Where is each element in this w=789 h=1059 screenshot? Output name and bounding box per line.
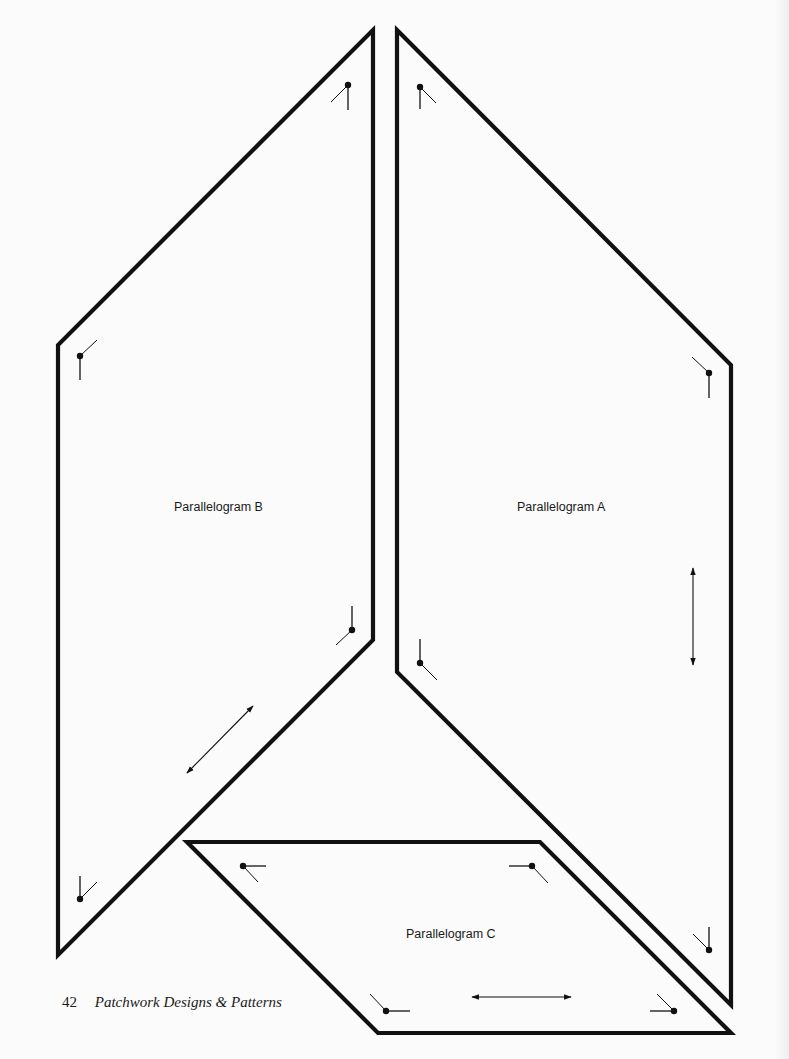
parallelogram-c-label: Parallelogram C: [406, 927, 496, 941]
seam-line: [243, 866, 258, 882]
corner-dot-icon: [417, 84, 423, 90]
seam-line: [693, 934, 709, 950]
corner-dot-icon: [417, 660, 423, 666]
seam-corner-mark: [417, 84, 436, 109]
pattern-page: Parallelogram B Parallelogram A Parallel…: [0, 0, 789, 1059]
page-edge-shadow: [775, 0, 789, 1059]
seam-line: [370, 994, 386, 1011]
seam-line: [657, 994, 674, 1011]
seam-line: [692, 357, 709, 373]
seam-corner-mark: [692, 357, 712, 398]
book-title: Patchwork Designs & Patterns: [95, 994, 282, 1010]
template-outlines: [58, 30, 731, 1033]
seam-line: [420, 87, 436, 103]
corner-dot-icon: [706, 370, 712, 376]
seam-allowance-marks: [77, 82, 712, 1014]
seam-corner-mark: [77, 340, 97, 380]
grain-arrow-b-icon: [187, 706, 253, 773]
seam-corner-mark: [336, 606, 355, 645]
corner-dot-icon: [383, 1008, 389, 1014]
seam-corner-mark: [509, 863, 548, 883]
corner-dot-icon: [77, 353, 83, 359]
corner-dot-icon: [77, 896, 83, 902]
page-number: 42: [62, 994, 77, 1010]
pattern-template-diagram: [0, 0, 789, 1059]
corner-dot-icon: [671, 1008, 677, 1014]
corner-dot-icon: [349, 627, 355, 633]
corner-dot-icon: [706, 947, 712, 953]
seam-corner-mark: [650, 994, 677, 1014]
seam-line: [80, 340, 97, 356]
parallelogram-b-outline: [58, 30, 373, 955]
seam-corner-mark: [417, 639, 437, 680]
seam-corner-mark: [77, 876, 97, 902]
parallelogram-a-label: Parallelogram A: [517, 500, 605, 514]
page-footer: 42 Patchwork Designs & Patterns: [62, 994, 282, 1011]
seam-corner-mark: [693, 927, 712, 953]
corner-dot-icon: [240, 863, 246, 869]
seam-line: [336, 630, 352, 645]
seam-corner-mark: [331, 82, 351, 110]
seam-line: [420, 663, 437, 680]
corner-dot-icon: [529, 863, 535, 869]
seam-corner-mark: [370, 994, 410, 1014]
seam-line: [331, 85, 348, 102]
seam-corner-mark: [240, 863, 266, 882]
seam-line: [80, 882, 97, 899]
parallelogram-a-outline: [397, 30, 731, 1005]
seam-line: [532, 866, 548, 883]
corner-dot-icon: [345, 82, 351, 88]
parallelogram-b-label: Parallelogram B: [174, 500, 263, 514]
